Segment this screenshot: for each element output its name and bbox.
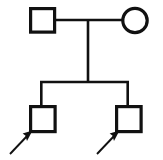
proband-arrow-left [10,131,33,155]
individual-male-father-square[interactable] [31,9,55,32]
pedigree-svg [0,0,163,160]
generation-2-individuals [31,107,142,132]
proband-arrow-right [97,131,120,155]
pedigree-diagram [0,0,163,160]
proband-arrow-right-shaft [97,135,116,155]
individual-female-mother-circle[interactable] [123,8,147,32]
individual-male-son-right-square[interactable] [117,107,142,132]
proband-arrow-left-shaft [10,135,29,155]
proband-arrows [10,131,120,155]
individual-male-son-left-square[interactable] [31,107,55,132]
